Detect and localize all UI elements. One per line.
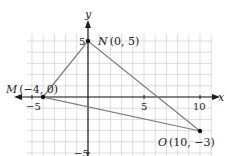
x-axis-label: x <box>218 91 225 104</box>
y-tick-label: −5 <box>74 148 89 156</box>
coordinate-plane: y x −5 5 10 5 −5 M(−4, 0) N(0, 5) O(10, … <box>0 0 227 156</box>
point-m-label: M(−4, 0) <box>5 83 58 96</box>
point-o-label: O(10, −3) <box>158 136 215 149</box>
point-n-label: N(0, 5) <box>97 35 139 48</box>
point-o <box>198 129 202 133</box>
x-tick-label: 5 <box>141 101 147 112</box>
x-tick-label: 10 <box>193 101 206 112</box>
x-tick-label: −5 <box>26 101 41 112</box>
point-n <box>86 39 90 43</box>
y-axis-label: y <box>84 8 92 21</box>
y-axis-up-arrow-icon <box>85 20 91 28</box>
